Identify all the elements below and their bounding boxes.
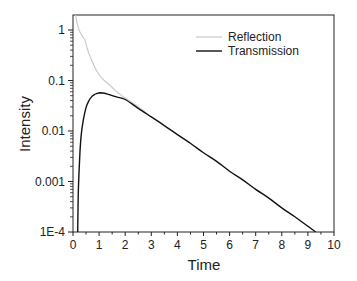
legend: Reflection Transmission xyxy=(196,30,299,58)
x-tick-label: 7 xyxy=(252,238,259,252)
chart-container: 012345678910 1E-40.0010.010.11 Reflectio… xyxy=(0,0,357,281)
y-tick-label: 0.001 xyxy=(35,175,65,189)
x-tick-label: 6 xyxy=(226,238,233,252)
x-tick-label: 2 xyxy=(122,238,129,252)
x-tick-label: 3 xyxy=(148,238,155,252)
x-tick-label: 1 xyxy=(96,238,103,252)
x-tick-label: 4 xyxy=(174,238,181,252)
y-axis-ticks: 1E-40.0010.010.11 xyxy=(35,23,73,239)
intensity-vs-time-plot: 012345678910 1E-40.0010.010.11 Reflectio… xyxy=(0,0,357,281)
y-tick-label: 0.1 xyxy=(48,74,65,88)
legend-label-transmission: Transmission xyxy=(228,44,299,58)
legend-label-reflection: Reflection xyxy=(228,30,281,44)
y-tick-label: 1 xyxy=(58,23,65,37)
x-tick-label: 0 xyxy=(70,238,77,252)
y-tick-label: 1E-4 xyxy=(40,225,66,239)
x-tick-label: 10 xyxy=(327,238,341,252)
y-tick-label: 0.01 xyxy=(42,124,66,138)
x-axis-ticks: 012345678910 xyxy=(70,232,341,252)
x-tick-label: 5 xyxy=(200,238,207,252)
y-axis-label: Intensity xyxy=(16,96,33,152)
x-tick-label: 9 xyxy=(305,238,312,252)
x-axis-label: Time xyxy=(188,256,221,273)
series-line-reflection xyxy=(76,15,152,117)
series-line-transmission xyxy=(78,93,316,232)
x-tick-label: 8 xyxy=(278,238,285,252)
